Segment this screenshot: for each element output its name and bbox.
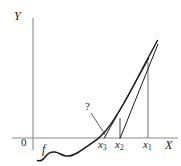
x-axis-label: X bbox=[165, 139, 172, 151]
axis-point-subscript-x1: 1 bbox=[148, 144, 152, 152]
tangent-line-at-x1 bbox=[120, 44, 158, 139]
figure-canvas bbox=[0, 0, 181, 166]
curve-label: f bbox=[42, 143, 45, 155]
axis-point-label-x1: x1 bbox=[143, 139, 152, 152]
axis-point-subscript-x3: 3 bbox=[103, 144, 107, 152]
y-axis-label: Y bbox=[14, 10, 21, 22]
origin-label: 0 bbox=[21, 137, 27, 148]
axis-point-label-x2: x2 bbox=[115, 139, 124, 152]
axis-point-label-x3: x3 bbox=[98, 139, 107, 152]
newton-method-figure: Y X 0 f ? x3 x2 x1 bbox=[0, 0, 181, 166]
axis-point-subscript-x2: 2 bbox=[120, 144, 124, 152]
question-mark-annotation: ? bbox=[85, 101, 90, 112]
